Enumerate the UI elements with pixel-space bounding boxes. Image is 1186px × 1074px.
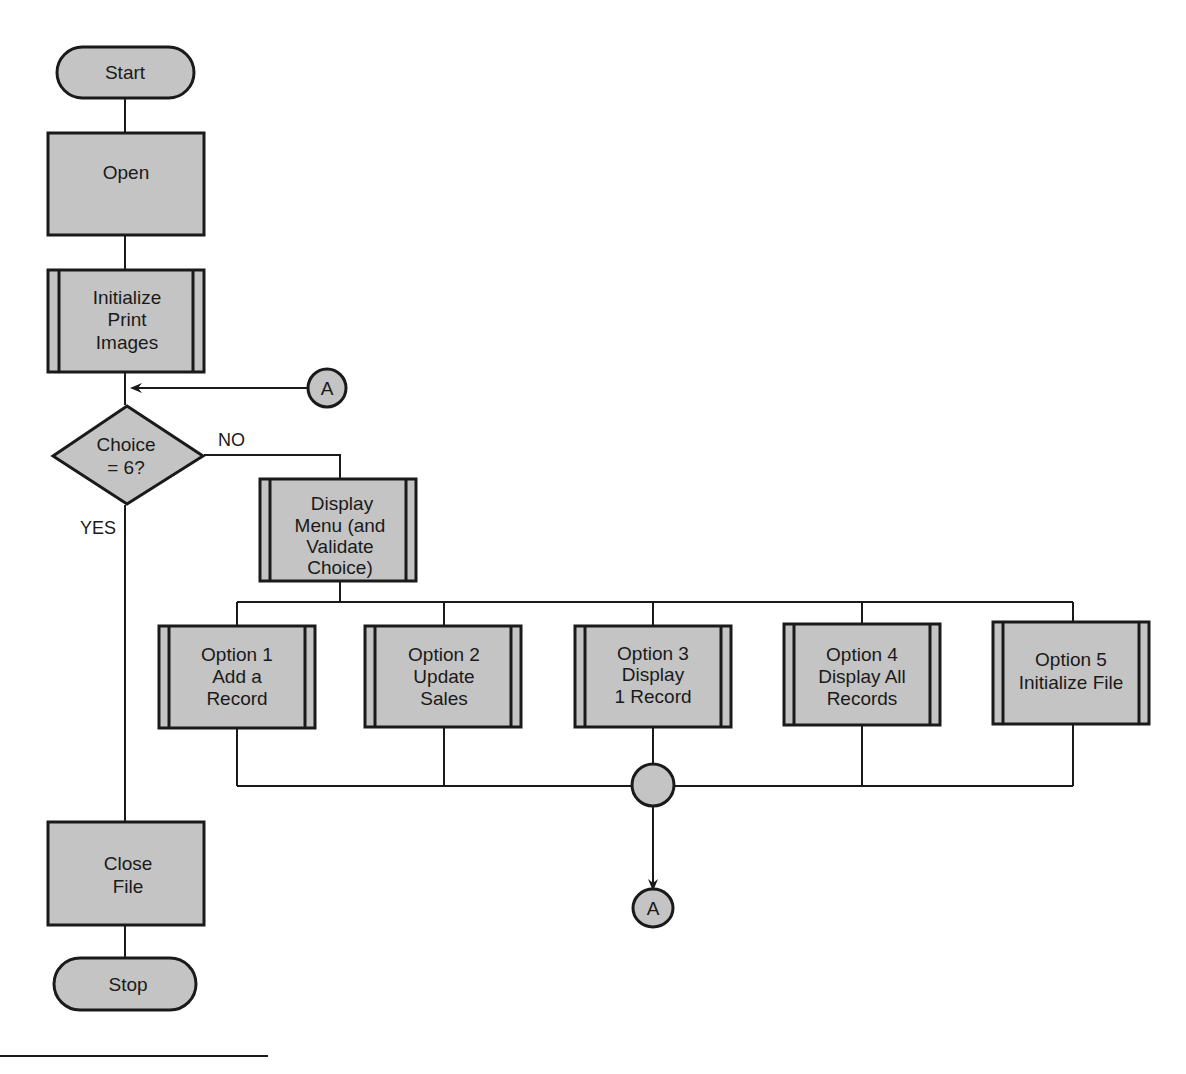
svg-text:Option 5: Option 5 (1035, 649, 1107, 670)
svg-text:Choice: Choice (96, 434, 155, 455)
svg-text:Open: Open (103, 162, 149, 183)
svg-text:Update: Update (413, 666, 474, 687)
svg-text:Option 4: Option 4 (826, 644, 898, 665)
svg-text:Validate: Validate (306, 536, 373, 557)
option-5-process: Option 5 Initialize File (993, 622, 1149, 724)
svg-text:Display All: Display All (818, 666, 906, 687)
svg-text:Close: Close (104, 853, 153, 874)
svg-text:Stop: Stop (108, 974, 147, 995)
open-label: Open (103, 162, 149, 183)
option4-line-3: Records (827, 688, 898, 709)
connector-a-in: A (308, 369, 346, 407)
svg-text:Display: Display (311, 493, 374, 514)
svg-text:Option 2: Option 2 (408, 644, 480, 665)
close-line-1: Close (104, 853, 153, 874)
menu-line-3: Validate (306, 536, 373, 557)
init-line-1: Initialize (93, 287, 162, 308)
connector-a-out: A (633, 889, 673, 927)
option5-line-1: Option 5 (1035, 649, 1107, 670)
svg-text:A: A (321, 378, 334, 399)
svg-text:Initialize File: Initialize File (1019, 672, 1124, 693)
decision-line-2: = 6? (107, 457, 145, 478)
initialize-print-images-process: Initialize Print Images (48, 270, 204, 372)
option-1-process: Option 1 Add a Record (159, 626, 315, 728)
svg-text:Initialize: Initialize (93, 287, 162, 308)
init-line-2: Print (107, 309, 147, 330)
svg-text:Menu (and: Menu (and (295, 515, 386, 536)
svg-text:File: File (113, 876, 144, 897)
option2-line-1: Option 2 (408, 644, 480, 665)
option4-line-1: Option 4 (826, 644, 898, 665)
no-label: NO (218, 430, 245, 450)
start-label: Start (105, 62, 146, 83)
menu-line-4: Choice) (307, 557, 372, 578)
option1-line-1: Option 1 (201, 644, 273, 665)
stop-terminal: Stop (54, 958, 196, 1010)
close-line-2: File (113, 876, 144, 897)
option3-line-1: Option 3 (617, 643, 689, 664)
svg-text:Records: Records (827, 688, 898, 709)
menu-line-2: Menu (and (295, 515, 386, 536)
yes-label: YES (80, 518, 116, 538)
option1-line-2: Add a (212, 666, 262, 687)
svg-text:A: A (647, 898, 660, 919)
option4-line-2: Display All (818, 666, 906, 687)
svg-text:Add a: Add a (212, 666, 262, 687)
stop-label: Stop (108, 974, 147, 995)
choice-decision: Choice = 6? (53, 406, 203, 504)
decision-line-1: Choice (96, 434, 155, 455)
option5-line-2: Initialize File (1019, 672, 1124, 693)
display-menu-process: Display Menu (and Validate Choice) (260, 479, 416, 581)
flowchart: Start Open Initialize Print Images A Cho… (0, 0, 1186, 1074)
option3-line-3: 1 Record (614, 686, 691, 707)
connector-a-label: A (321, 378, 334, 399)
start-terminal: Start (57, 47, 194, 98)
menu-line-1: Display (311, 493, 374, 514)
svg-text:Option 3: Option 3 (617, 643, 689, 664)
option3-line-2: Display (622, 664, 685, 685)
svg-text:Sales: Sales (420, 688, 468, 709)
option-4-process: Option 4 Display All Records (784, 624, 940, 725)
init-line-3: Images (96, 332, 158, 353)
option-2-process: Option 2 Update Sales (365, 626, 521, 727)
junction-circle (632, 764, 674, 806)
svg-text:Print: Print (107, 309, 147, 330)
option1-line-3: Record (206, 688, 267, 709)
svg-text:Choice): Choice) (307, 557, 372, 578)
svg-text:Start: Start (105, 62, 146, 83)
option2-line-3: Sales (420, 688, 468, 709)
option2-line-2: Update (413, 666, 474, 687)
connector-a-out-label: A (647, 898, 660, 919)
svg-text:Record: Record (206, 688, 267, 709)
svg-text:= 6?: = 6? (107, 457, 145, 478)
open-process: Open (48, 133, 204, 235)
svg-text:Images: Images (96, 332, 158, 353)
close-file-process: Close File (48, 822, 204, 925)
svg-text:Display: Display (622, 664, 685, 685)
svg-text:1 Record: 1 Record (614, 686, 691, 707)
svg-text:Option 1: Option 1 (201, 644, 273, 665)
option-3-process: Option 3 Display 1 Record (575, 626, 731, 727)
